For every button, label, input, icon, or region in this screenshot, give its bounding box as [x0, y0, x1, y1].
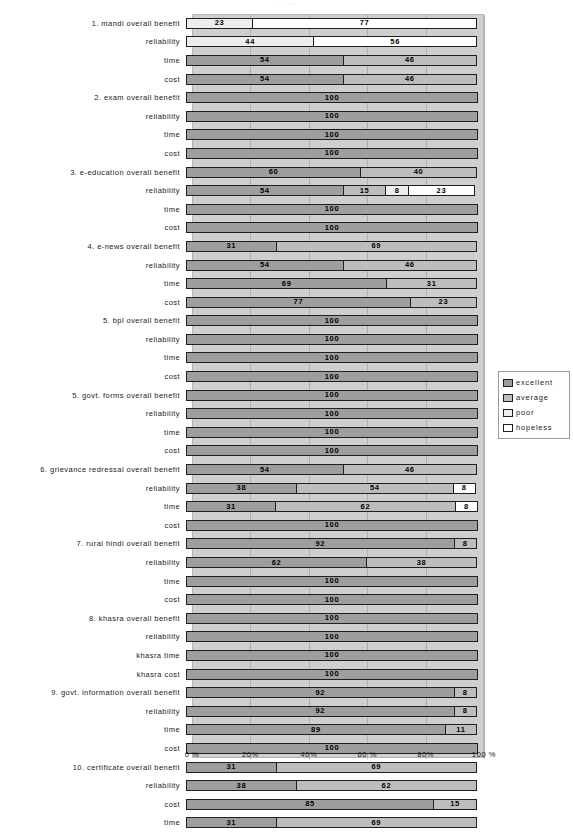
bar-segment-value: 89 — [311, 726, 321, 734]
chart-legend: excellentaveragepoorhopeless — [498, 371, 570, 439]
chart-row: time3169 — [0, 814, 573, 832]
bar-track: 928 — [186, 538, 478, 549]
legend-label: excellent — [516, 378, 553, 387]
bar-track: 100 — [186, 352, 478, 363]
bar-segment-excellent: 54 — [186, 74, 344, 85]
bar-track: 100 — [186, 427, 478, 438]
row-label: time — [0, 428, 186, 437]
x-axis-tick: 60 % — [357, 750, 377, 759]
row-label: time — [0, 279, 186, 288]
bar-segment-average: 8 — [454, 538, 477, 549]
bar-segment-excellent: 100 — [186, 445, 478, 456]
row-label: reliability — [0, 484, 186, 493]
chart-row: khasra time100 — [0, 646, 573, 665]
chart-row: 1. mandi overall benefit2377 — [0, 14, 573, 33]
x-axis-tick: 80% — [417, 750, 434, 759]
bar-track: 5446 — [186, 260, 478, 271]
bar-segment-value: 85 — [305, 800, 315, 808]
bar-segment-value: 62 — [272, 559, 282, 567]
bar-segment-value: 8 — [463, 540, 468, 548]
bar-segment-excellent: 100 — [186, 520, 478, 531]
row-label: cost — [0, 372, 186, 381]
bar-segment-value: 77 — [360, 19, 370, 27]
bar-segment-hopeless: 56 — [313, 36, 477, 47]
x-axis-tick: 100 % — [472, 750, 496, 759]
chart-row: reliability5446 — [0, 256, 573, 275]
bar-segment-excellent: 38 — [186, 483, 297, 494]
bar-segment-hopeless: 8 — [453, 483, 476, 494]
legend-item-poor[interactable]: poor — [503, 405, 566, 420]
chart-row: time100 — [0, 572, 573, 591]
bar-track: 7723 — [186, 297, 478, 308]
bar-segment-excellent: 100 — [186, 669, 478, 680]
bar-segment-excellent: 100 — [186, 129, 478, 140]
row-label: reliability — [0, 409, 186, 418]
bar-segment-average: 69 — [276, 241, 477, 252]
bar-segment-average: 38 — [366, 557, 477, 568]
chart-row: 9. govt. information overall benefit928 — [0, 683, 573, 702]
bar-track: 100 — [186, 613, 478, 624]
bar-track: 5446 — [186, 55, 478, 66]
bar-track: 3862 — [186, 780, 478, 791]
bar-segment-value: 46 — [405, 75, 415, 83]
bar-segment-value: 54 — [260, 56, 270, 64]
bar-segment-excellent: 92 — [186, 706, 455, 717]
bar-track: 5446 — [186, 74, 478, 85]
row-label: khasra time — [0, 651, 186, 660]
bar-track: 2377 — [186, 18, 478, 29]
chart-row: khasra cost100 — [0, 665, 573, 684]
bar-track: 928 — [186, 687, 478, 698]
bar-segment-value: 100 — [325, 94, 340, 102]
bar-segment-excellent: 100 — [186, 204, 478, 215]
bar-segment-value: 100 — [325, 205, 340, 213]
bar-segment-average: 46 — [343, 260, 477, 271]
legend-label: average — [516, 393, 549, 402]
bar-segment-average: 69 — [276, 817, 477, 828]
bar-segment-excellent: 60 — [186, 167, 361, 178]
chart-row: reliability5415823 — [0, 181, 573, 200]
bar-segment-excellent: 100 — [186, 594, 478, 605]
bar-segment-value: 31 — [427, 280, 437, 288]
bar-segment-value: 56 — [390, 38, 400, 46]
row-label: reliability — [0, 335, 186, 344]
bar-segment-value: 69 — [371, 819, 381, 827]
legend-item-excellent[interactable]: excellent — [503, 375, 566, 390]
bar-segment-value: 100 — [325, 447, 340, 455]
bar-segment-average: 46 — [343, 464, 477, 475]
row-label: time — [0, 725, 186, 734]
bar-track: 100 — [186, 408, 478, 419]
row-label: 3. e-education overall benefit — [0, 168, 186, 177]
bar-segment-excellent: 54 — [186, 55, 344, 66]
chart-row: 5. govt. forms overall benefit100 — [0, 386, 573, 405]
bar-track: 100 — [186, 92, 478, 103]
legend-item-hopeless[interactable]: hopeless — [503, 420, 566, 435]
chart-row: reliability100 — [0, 628, 573, 647]
bar-track: 3169 — [186, 241, 478, 252]
bar-track: 5415823 — [186, 185, 478, 196]
row-label: reliability — [0, 781, 186, 790]
row-label: time — [0, 818, 186, 827]
bar-track: 100 — [186, 129, 478, 140]
bar-segment-value: 62 — [361, 503, 371, 511]
bar-segment-average: 40 — [360, 167, 477, 178]
bar-segment-excellent: 54 — [186, 260, 344, 271]
bar-segment-excellent: 31 — [186, 817, 277, 828]
row-label: cost — [0, 223, 186, 232]
bar-segment-excellent: 69 — [186, 278, 387, 289]
row-label: time — [0, 130, 186, 139]
bar-segment-poor: 44 — [186, 36, 314, 47]
bar-rows: 1. mandi overall benefit2377reliability4… — [0, 14, 573, 832]
bar-segment-average: 46 — [343, 55, 477, 66]
bar-segment-excellent: 31 — [186, 241, 277, 252]
legend-item-average[interactable]: average — [503, 390, 566, 405]
bar-track: 928 — [186, 706, 478, 717]
bar-segment-average: 11 — [445, 724, 477, 735]
bar-segment-value: 15 — [450, 800, 460, 808]
bar-segment-value: 100 — [325, 391, 340, 399]
bar-track: 4456 — [186, 36, 478, 47]
bar-segment-value: 38 — [237, 782, 247, 790]
bar-segment-average: 62 — [275, 501, 455, 512]
row-label: cost — [0, 149, 186, 158]
bar-segment-value: 100 — [325, 651, 340, 659]
chart-row: cost100 — [0, 144, 573, 163]
